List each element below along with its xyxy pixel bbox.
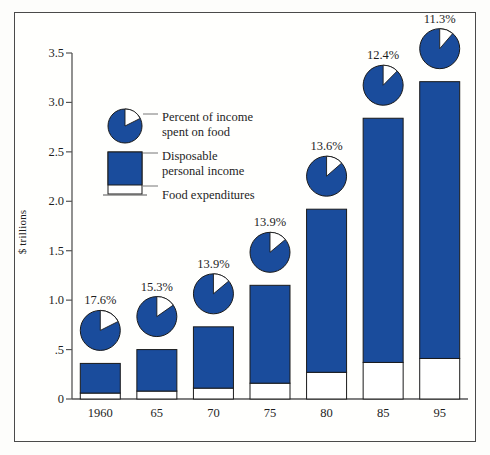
y-tick-label: 1.5: [34, 243, 64, 258]
y-tick-label: 3.5: [34, 46, 64, 61]
bar-segment-food-expenditures: [193, 388, 233, 399]
percent-data-label: 17.6%: [84, 293, 116, 308]
x-tick-label: 70: [207, 406, 220, 421]
percent-data-label: 12.4%: [367, 48, 399, 63]
bar-segment-food-expenditures: [250, 383, 290, 399]
percent-data-label: 15.3%: [141, 280, 173, 295]
y-tick-label: 2.5: [34, 144, 64, 159]
bar-segment-disposable-income: [193, 327, 233, 388]
y-tick-label: .5: [34, 342, 64, 357]
percent-data-label: 11.3%: [424, 12, 456, 27]
bar-segment-food-expenditures: [307, 372, 347, 399]
bar-segment-disposable-income: [420, 82, 460, 359]
percent-data-label: 13.9%: [197, 257, 229, 272]
y-tick-label: 1.0: [34, 293, 64, 308]
legend-bar-icon-income: [108, 152, 142, 185]
y-tick-label: 0: [34, 392, 64, 407]
x-tick-label: 80: [320, 406, 333, 421]
x-tick-label: 75: [264, 406, 277, 421]
x-tick-label: 65: [151, 406, 164, 421]
bar-segment-food-expenditures: [420, 358, 460, 399]
bar-segment-disposable-income: [307, 209, 347, 372]
chart-canvas: [0, 0, 490, 455]
legend-group: [103, 109, 158, 195]
y-tick-label: 2.0: [34, 194, 64, 209]
bar-segment-food-expenditures: [137, 391, 177, 399]
legend-label-bar: Disposable personal income: [162, 149, 244, 178]
bar-segment-disposable-income: [363, 118, 403, 362]
percent-data-label: 13.9%: [254, 215, 286, 230]
bar-segment-disposable-income: [137, 350, 177, 392]
chart-figure: $ trillions 0.51.01.52.02.53.03.5 196065…: [0, 0, 490, 455]
x-tick-label: 85: [377, 406, 390, 421]
legend-label-pie: Percent of income spent on food: [162, 110, 253, 139]
bar-segment-food-expenditures: [363, 362, 403, 399]
y-tick-label: 3.0: [34, 95, 64, 110]
bar-segment-disposable-income: [80, 363, 120, 393]
percent-data-label: 13.6%: [310, 139, 342, 154]
legend-label-base: Food expenditures: [162, 188, 255, 203]
x-tick-label: 1960: [88, 406, 113, 421]
bar-segment-food-expenditures: [80, 393, 120, 399]
bar-segment-disposable-income: [250, 285, 290, 383]
x-tick-label: 95: [433, 406, 446, 421]
